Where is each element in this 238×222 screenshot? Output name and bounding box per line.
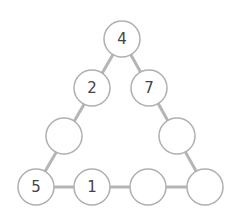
node-bottom-3[interactable] [130, 169, 166, 205]
edge-left [36, 39, 122, 187]
node-bottom-1-value: 5 [31, 178, 41, 196]
node-bottom-4[interactable] [187, 169, 223, 205]
node-right-3[interactable] [159, 118, 195, 154]
node-bottom-2-value: 1 [87, 178, 97, 196]
triangle-diagram: 4 2 7 5 1 [0, 0, 238, 222]
node-right-2-value: 7 [144, 79, 154, 97]
connector-lines [36, 39, 205, 187]
node-left-3[interactable] [46, 118, 82, 154]
node-left-2-value: 2 [87, 79, 97, 97]
circle-nodes [18, 21, 223, 205]
node-top-value: 4 [117, 30, 127, 48]
edge-right [122, 39, 205, 187]
